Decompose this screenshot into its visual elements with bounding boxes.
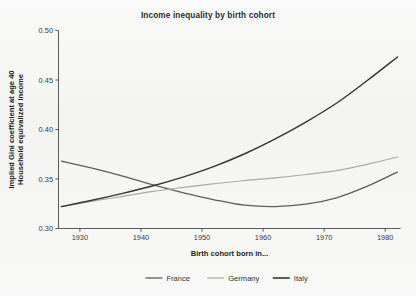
legend-label-italy: Italy xyxy=(294,274,308,283)
x-tick-label: 1980 xyxy=(377,233,393,242)
chart-plot-area: Implied Gini coefficient at age 40Househ… xyxy=(0,0,416,296)
x-tick-label: 1970 xyxy=(316,233,332,242)
y-tick-label: 0.45 xyxy=(39,76,53,85)
legend-label-germany: Germany xyxy=(228,274,259,283)
series-line-italy xyxy=(62,57,398,206)
x-tick-label: 1960 xyxy=(255,233,271,242)
x-axis-ticks: 193019401950196019701980 xyxy=(72,229,394,243)
legend-label-france: France xyxy=(166,274,190,283)
x-tick-label: 1930 xyxy=(72,233,88,242)
y-tick-label: 0.35 xyxy=(39,175,53,184)
series-line-germany xyxy=(62,157,398,207)
series-line-france xyxy=(62,161,398,206)
y-axis-title-line1: Implied Gini coefficient at age 40 xyxy=(7,70,16,188)
y-tick-label: 0.50 xyxy=(39,26,53,35)
x-tick-label: 1950 xyxy=(194,233,210,242)
series-lines xyxy=(62,57,398,207)
y-axis-title: Implied Gini coefficient at age 40Househ… xyxy=(7,70,25,188)
x-tick-label: 1940 xyxy=(133,233,149,242)
y-axis-ticks: 0.300.350.400.450.50 xyxy=(39,26,59,233)
x-axis-title-text: Birth cohort born in... xyxy=(191,249,269,258)
line-chart-svg: Implied Gini coefficient at age 40Househ… xyxy=(0,0,416,296)
x-axis-title: Birth cohort born in... xyxy=(191,249,269,258)
y-tick-label: 0.40 xyxy=(39,125,53,134)
chart-page: Income inequality by birth cohort Implie… xyxy=(0,0,416,296)
chart-legend: FranceGermanyItaly xyxy=(145,274,308,283)
y-tick-label: 0.30 xyxy=(39,224,53,233)
y-axis-title-line2: Household equivalized income xyxy=(16,74,25,185)
